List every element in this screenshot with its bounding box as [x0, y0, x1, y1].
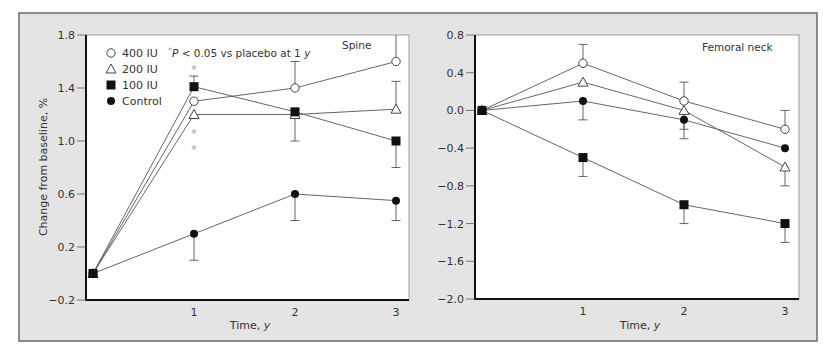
filled-circle-marker-icon [392, 197, 400, 205]
open-circle-marker-icon [781, 125, 789, 133]
y-tick-label: 0.8 [447, 29, 465, 42]
open-circle-marker-icon [579, 59, 587, 67]
filled-circle-marker-icon [579, 97, 587, 105]
significance-note: *P < 0.05 vs placebo at 1 y [168, 47, 311, 59]
y-tick-label: 1.0 [58, 135, 76, 148]
femoral-neck-panel-title: Femoral neck [702, 41, 773, 53]
filled-circle-marker-icon [89, 270, 97, 278]
y-tick-label: 0.4 [447, 67, 465, 80]
open-circle-marker-icon [680, 97, 688, 105]
x-axis-label-text: Time, [229, 319, 264, 332]
filled-circle-marker-icon [478, 106, 486, 114]
filled-square-marker-icon [392, 137, 401, 146]
spine-y-axis-label: Change from baseline, % [37, 98, 50, 236]
y-tick-label: −0.2 [48, 294, 75, 307]
filled-square-marker-icon [680, 200, 689, 209]
open-circle-marker-icon [190, 97, 198, 105]
open-circle-marker-icon [107, 49, 115, 57]
significance-asterisk: * [191, 127, 197, 140]
x-axis-label-unit: y [263, 319, 271, 332]
x-tick-label: 2 [292, 306, 299, 319]
legend-label: 100 IU [122, 79, 158, 92]
spine-x-axis-label: Time, y [229, 319, 271, 332]
significance-asterisk: * [191, 143, 197, 156]
femoral-neck-x-axis-label: Time, y [619, 319, 661, 332]
open-circle-marker-icon [291, 84, 299, 92]
x-tick-label: 1 [580, 305, 587, 318]
x-axis-label-unit: y [653, 319, 661, 332]
plot-area [474, 35, 799, 299]
filled-square-marker-icon [190, 82, 199, 91]
filled-square-marker-icon [107, 81, 116, 90]
y-tick-label: 0.0 [447, 104, 465, 117]
x-tick-label: 1 [191, 306, 198, 319]
legend-label: 400 IU [122, 47, 158, 60]
spine-panel: *** Spine Change from baseline, % Time, … [37, 29, 409, 332]
x-tick-label: 2 [681, 305, 688, 318]
open-circle-marker-icon [392, 57, 400, 65]
note-text: < 0.05 vs placebo at 1 [178, 47, 304, 59]
filled-square-marker-icon [579, 153, 588, 162]
filled-circle-marker-icon [680, 116, 688, 124]
plot-background [475, 35, 799, 299]
legend-label: Control [122, 95, 162, 108]
filled-circle-marker-icon [291, 190, 299, 198]
filled-circle-marker-icon [190, 230, 198, 238]
y-tick-label: −1.2 [437, 218, 464, 231]
y-tick-label: 0.2 [58, 241, 76, 254]
filled-square-marker-icon [781, 219, 790, 228]
y-tick-label: 0.6 [58, 188, 76, 201]
x-tick-label: 3 [782, 305, 789, 318]
y-tick-label: −2.0 [437, 293, 464, 306]
note-unit: y [303, 47, 311, 59]
x-tick-label: 3 [393, 306, 400, 319]
filled-circle-marker-icon [107, 97, 115, 105]
y-tick-label: 1.4 [58, 82, 76, 95]
femoral-neck-panel: Femoral neck Time, y 0.80.40.0−0.4−0.8−1… [437, 29, 799, 332]
y-tick-label: −0.4 [437, 142, 464, 155]
filled-circle-marker-icon [781, 144, 789, 152]
figure: *** Spine Change from baseline, % Time, … [0, 0, 828, 353]
legend-label: 200 IU [122, 63, 158, 76]
x-axis-label-text: Time, [619, 319, 654, 332]
y-tick-label: −0.8 [437, 180, 464, 193]
spine-panel-title: Spine [342, 39, 371, 51]
y-tick-label: −1.6 [437, 255, 464, 268]
y-tick-label: 1.8 [58, 29, 76, 42]
significance-asterisk: * [191, 63, 197, 76]
filled-square-marker-icon [291, 107, 300, 116]
